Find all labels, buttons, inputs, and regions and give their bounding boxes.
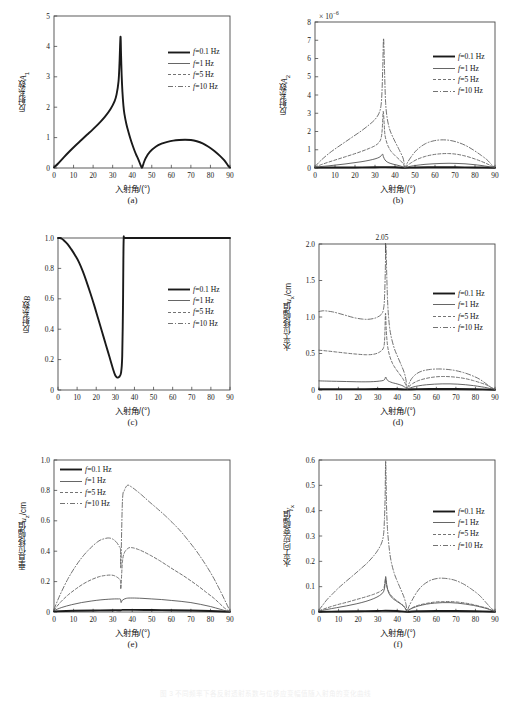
x-tick-label: 20 (89, 615, 97, 624)
legend-swatch-icon (433, 313, 455, 320)
legend-item: f=10 Hz (60, 498, 112, 509)
x-tick-label: 30 (371, 171, 379, 180)
x-tick-label: 70 (187, 615, 195, 624)
subplot-caption-f: (f) (265, 639, 531, 649)
legend-label: f=5 Hz (458, 74, 479, 85)
y-tick-label: 0.8 (41, 486, 51, 495)
legend-label: f=5 Hz (458, 528, 479, 539)
x-tick-label: 0 (52, 171, 56, 180)
legend-swatch-icon (60, 466, 82, 473)
series-line (54, 548, 230, 612)
x-tick-label: 90 (226, 171, 234, 180)
legend-item: f=10 Hz (433, 322, 485, 333)
x-axis-label-f: 入射角/(°) (265, 626, 531, 638)
legend-swatch-icon (433, 508, 455, 515)
series-line (319, 577, 495, 612)
x-tick-label: 0 (317, 393, 321, 402)
panel-c: 010203040506070809000.20.40.60.81.0入射角/(… (0, 222, 265, 444)
y-tick-label: 1.0 (45, 234, 55, 243)
chart-svg-d: 010203040506070809000.51.01.52.0 (319, 244, 525, 420)
x-tick-label: 70 (188, 393, 196, 402)
y-tick-label: 0.4 (41, 547, 51, 556)
y-axis-label-f: 水平向应变幅值γx (283, 505, 295, 567)
x-tick-label: 30 (109, 171, 117, 180)
y-tick-label: 0.1 (306, 582, 316, 591)
legend-swatch-icon (168, 320, 190, 327)
x-axis-label-d: 入射角/(°) (265, 404, 531, 416)
x-tick-label: 20 (354, 615, 362, 624)
x-tick-label: 80 (207, 171, 215, 180)
y-tick-label: 4 (46, 42, 50, 51)
y-tick-label: 0.4 (306, 506, 316, 515)
x-tick-label: 10 (70, 171, 78, 180)
y-tick-label: 0.5 (306, 481, 316, 490)
legend-swatch-icon (60, 478, 82, 485)
y-tick-label: 2 (46, 103, 50, 112)
x-tick-label: 90 (491, 171, 499, 180)
legend-swatch-icon (168, 297, 190, 304)
y-tick-label: 0 (311, 386, 315, 395)
subplot-caption-d: (d) (265, 417, 531, 427)
y-tick-label: 0.6 (45, 294, 55, 303)
legend-item: f=1 Hz (433, 299, 485, 310)
x-tick-label: 80 (207, 615, 215, 624)
x-tick-label: 50 (148, 171, 156, 180)
series-line (54, 610, 230, 612)
y-axis-label-a: 反射系数A1 (18, 72, 30, 112)
legend-label: f=1 Hz (458, 63, 479, 74)
legend-f: f=0.1 Hzf=1 Hzf=5 Hzf=10 Hz (433, 506, 485, 552)
legend-d: f=0.1 Hzf=1 Hzf=5 Hzf=10 Hz (433, 288, 485, 334)
x-tick-label: 0 (317, 615, 321, 624)
legend-label: f=10 Hz (458, 322, 483, 333)
x-tick-label: 30 (374, 615, 382, 624)
chart-svg-a: 0102030405060708090012345 (54, 16, 260, 198)
x-tick-label: 80 (471, 171, 479, 180)
y-tick-label: 2.0 (306, 240, 316, 249)
chart-svg-b: 0102030405060708090012345678 (315, 22, 525, 198)
legend-item: f=1 Hz (168, 58, 220, 69)
figure-grid: 0102030405060708090012345入射角/(°)反射系数A1(a… (0, 0, 531, 701)
plot-area-f: 010203040506070809000.10.20.30.40.50.6 (319, 460, 525, 642)
x-tick-label: 40 (391, 171, 399, 180)
legend-item: f=10 Hz (433, 540, 485, 551)
legend-swatch-icon (168, 49, 190, 56)
x-tick-label: 70 (452, 393, 460, 402)
legend-item: f=5 Hz (433, 311, 485, 322)
legend-e: f=0.1 Hzf=1 Hzf=5 Hzf=10 Hz (60, 464, 112, 510)
legend-item: f=5 Hz (60, 487, 112, 498)
x-axis-label-e: 入射角/(°) (0, 626, 265, 638)
y-tick-label: 5 (307, 72, 311, 81)
x-tick-label: 60 (168, 615, 176, 624)
y-axis-label-c: 反射系数B (22, 296, 34, 333)
y-tick-label: 0.2 (45, 355, 55, 364)
y-tick-label: 1 (46, 133, 50, 142)
x-tick-label: 20 (354, 393, 362, 402)
x-tick-label: 60 (433, 615, 441, 624)
legend-swatch-icon (433, 301, 455, 308)
x-tick-label: 50 (413, 393, 421, 402)
legend-label: f=0.1 Hz (193, 284, 220, 295)
x-tick-label: 80 (472, 615, 480, 624)
y-tick-label: 0 (50, 386, 54, 395)
legend-a: f=0.1 Hzf=1 Hzf=5 Hzf=10 Hz (168, 46, 220, 92)
legend-label: f=0.1 Hz (458, 506, 485, 517)
chart-svg-c: 010203040506070809000.20.40.60.81.0 (58, 238, 260, 420)
legend-item: f=10 Hz (433, 85, 485, 96)
legend-swatch-icon (168, 286, 190, 293)
legend-label: f=10 Hz (85, 498, 110, 509)
x-tick-label: 30 (112, 393, 120, 402)
x-tick-label: 70 (187, 171, 195, 180)
x-tick-label: 90 (491, 615, 499, 624)
y-tick-label: 0.6 (306, 456, 316, 465)
y-tick-label: 1.0 (306, 313, 316, 322)
y-tick-label: 6 (307, 54, 311, 63)
legend-item: f=0.1 Hz (433, 506, 485, 517)
y-tick-label: 0.4 (45, 325, 55, 334)
y-tick-label: 1.0 (41, 456, 51, 465)
x-tick-label: 0 (313, 171, 317, 180)
subplot-caption-b: (b) (265, 195, 531, 205)
y-tick-label: 0.2 (306, 557, 316, 566)
x-tick-label: 50 (148, 615, 156, 624)
x-tick-label: 30 (374, 393, 382, 402)
x-tick-label: 10 (335, 393, 343, 402)
